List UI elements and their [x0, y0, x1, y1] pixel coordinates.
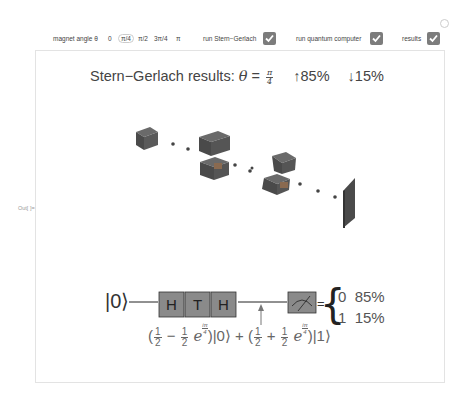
result-0-percent: 85% — [355, 288, 385, 305]
detector-screen — [343, 178, 355, 228]
t1-exp-num: iπ — [202, 322, 207, 329]
beam-dot — [171, 142, 175, 146]
t1-exp-base: e — [193, 327, 202, 345]
beam-dot — [186, 147, 190, 151]
t1-sign: − — [167, 327, 176, 344]
magnet-lower — [200, 157, 229, 180]
beam-dot — [248, 169, 252, 173]
gate-h2-label: H — [218, 296, 229, 313]
state-plus: + — [235, 327, 244, 344]
result-0-outcome: 0 — [338, 288, 346, 305]
magnet-upper — [199, 131, 230, 156]
measurement-meter-icon — [288, 292, 316, 313]
gate-h1-label: H — [166, 296, 177, 313]
t2-exp-den: 4 — [303, 329, 306, 335]
quantum-state-expression: (12 − 12 eiπ4)|0⟩ + (12 + 12 eiπ4)|1⟩ — [148, 322, 331, 348]
t2-a-den: 2 — [255, 337, 261, 348]
input-ket: |0⟩ — [105, 289, 129, 313]
beam-dot — [333, 195, 337, 199]
second-magnet-lower — [262, 174, 290, 195]
t1-exp-den: 4 — [203, 329, 206, 335]
t1-a-den: 2 — [155, 337, 161, 348]
t2-exp-base: e — [293, 327, 302, 345]
t2-exp-num: iπ — [302, 322, 307, 329]
result-1: 1 15% — [338, 309, 385, 326]
beam-dot — [233, 163, 237, 167]
result-0: 0 85% — [338, 288, 385, 305]
result-1-outcome: 1 — [338, 309, 346, 326]
t2-sign: + — [267, 327, 276, 344]
gate-t-label: T — [193, 296, 202, 313]
t2-b-den: 2 — [282, 337, 288, 348]
result-1-percent: 15% — [355, 309, 385, 326]
beam-dot — [298, 182, 302, 186]
t1-ket: |0⟩ — [213, 327, 231, 344]
beam-dot — [316, 189, 320, 193]
t1-b-den: 2 — [182, 337, 188, 348]
particle-source — [136, 127, 158, 150]
second-magnet-upper — [272, 152, 296, 174]
beam-dot — [251, 167, 254, 170]
t2-ket: |1⟩ — [313, 327, 331, 344]
